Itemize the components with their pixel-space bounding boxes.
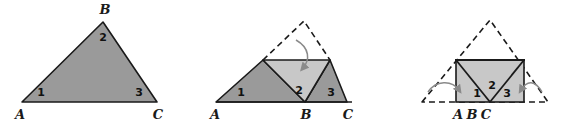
angle-label-3: 3 [135, 86, 143, 99]
angle-label-2: 2 [488, 79, 496, 92]
vertex-label-a: A [13, 107, 25, 122]
angle-label-1: 1 [37, 86, 45, 99]
vertex-label-b: B [466, 107, 478, 122]
vertex-label-b: B [99, 2, 111, 17]
angle-label-2: 2 [295, 84, 303, 97]
figure-canvas: 1 2 3 A B C 1 2 3 A B C [0, 0, 561, 126]
angle-label-1: 1 [237, 86, 245, 99]
vertex-label-a: A [451, 107, 463, 122]
angle-label-1: 1 [473, 87, 481, 100]
angle-label-3: 3 [503, 87, 511, 100]
fold-left-arrow-icon [428, 83, 459, 92]
angle-label-2: 2 [99, 31, 107, 44]
vertex-label-c: C [343, 107, 354, 122]
vertex-label-a: A [208, 107, 220, 122]
panel-original-triangle: 1 2 3 A B C [13, 2, 164, 122]
panel-folded-rectangle: 1 2 3 A B C [422, 20, 548, 122]
vertex-label-b: B [300, 107, 312, 122]
panel-folded-triangle: 1 2 3 A B C [208, 21, 354, 122]
angle-label-3: 3 [327, 86, 335, 99]
geometry-illustration: 1 2 3 A B C 1 2 3 A B C [0, 0, 561, 126]
vertex-label-c: C [153, 107, 164, 122]
vertex-label-c: C [481, 107, 492, 122]
